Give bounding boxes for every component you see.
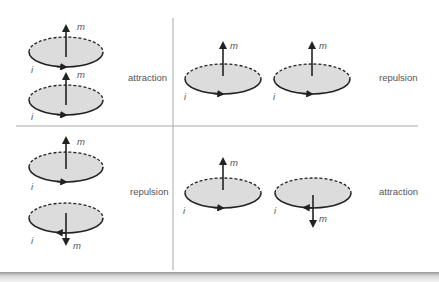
moment-label: m xyxy=(319,213,327,224)
current-loops xyxy=(29,28,351,242)
current-label: i xyxy=(183,205,185,216)
current-loop xyxy=(29,203,103,242)
current-label: i xyxy=(274,205,276,216)
moment-label: m xyxy=(73,240,81,251)
current-loop xyxy=(185,161,261,208)
current-label: i xyxy=(31,64,33,75)
page-edge-shadow xyxy=(0,272,439,282)
current-label: i xyxy=(273,91,275,102)
moment-label: m xyxy=(230,157,238,168)
magnetic-dipole-interaction-diagram xyxy=(0,0,439,282)
current-label: i xyxy=(184,91,186,102)
moment-label: m xyxy=(77,21,85,32)
moment-label: m xyxy=(230,40,238,51)
current-loop xyxy=(29,76,103,115)
current-loop xyxy=(275,178,351,224)
current-loop xyxy=(29,28,103,67)
result-label-top-right: repulsion xyxy=(379,72,418,83)
current-label: i xyxy=(31,111,33,122)
current-loop xyxy=(274,45,350,94)
result-label-bottom-right: attraction xyxy=(379,186,418,197)
current-loop xyxy=(29,140,103,182)
moment-label: m xyxy=(319,40,327,51)
moment-label: m xyxy=(77,136,85,147)
current-label: i xyxy=(31,181,33,192)
result-label-top-left: attraction xyxy=(128,72,167,83)
result-label-bottom-left: repulsion xyxy=(130,186,169,197)
moment-label: m xyxy=(77,69,85,80)
current-label: i xyxy=(31,235,33,246)
current-loop xyxy=(185,45,261,94)
